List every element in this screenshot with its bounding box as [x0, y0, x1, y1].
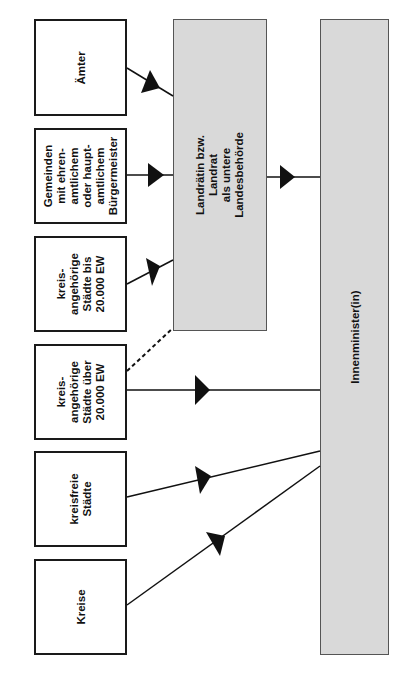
connector-lines: [0, 0, 409, 689]
arrow-icon: [148, 163, 164, 187]
arrow-icon: [146, 258, 160, 286]
arrow-icon: [141, 70, 160, 93]
arrow-icon: [195, 375, 210, 405]
arrow-icon: [206, 532, 225, 556]
arrow-icon: [280, 165, 295, 189]
